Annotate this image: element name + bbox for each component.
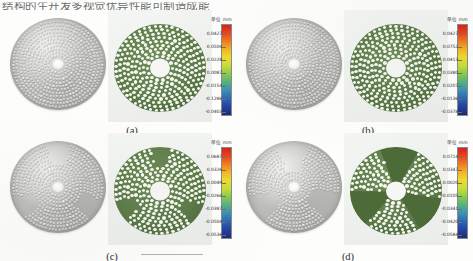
hole — [38, 66, 40, 68]
hole — [364, 37, 367, 40]
colorbar-tick: 0.0380 — [443, 70, 458, 75]
hole — [296, 218, 298, 220]
hole — [294, 171, 296, 173]
hole — [41, 202, 43, 204]
hole — [77, 73, 79, 75]
colorbar-tick: -0.0403 — [205, 109, 222, 114]
hole — [264, 35, 266, 37]
center-hub — [288, 181, 301, 193]
hole — [262, 160, 264, 162]
hole — [292, 215, 294, 217]
hole — [79, 181, 81, 183]
hole — [146, 179, 150, 182]
hole — [309, 175, 311, 177]
hole — [170, 226, 173, 229]
hole — [178, 204, 181, 207]
hole — [37, 186, 39, 188]
hole — [391, 55, 395, 58]
hole — [125, 94, 128, 97]
hole — [302, 214, 304, 216]
hole — [59, 106, 61, 108]
hole — [406, 174, 410, 177]
hole — [310, 27, 312, 29]
hole — [73, 84, 75, 86]
hole — [32, 164, 34, 166]
hole — [124, 40, 127, 43]
hole — [72, 92, 74, 94]
hole — [266, 93, 268, 95]
hole — [273, 80, 275, 82]
hole — [40, 23, 42, 25]
hole — [298, 38, 300, 40]
hole — [165, 97, 168, 100]
hole — [50, 35, 52, 37]
hole — [293, 44, 295, 46]
hole — [305, 160, 307, 162]
hole — [302, 224, 304, 226]
hole — [288, 175, 290, 177]
hole — [408, 39, 411, 42]
colorbar-tick-mark — [458, 183, 462, 184]
hole — [314, 79, 316, 81]
hole — [371, 59, 374, 62]
hole — [358, 91, 361, 94]
hole — [269, 95, 271, 97]
hole — [156, 51, 160, 54]
hole — [50, 161, 52, 163]
hole — [362, 64, 365, 67]
hole — [287, 102, 289, 104]
hole — [98, 184, 100, 186]
hole — [310, 44, 312, 46]
hole — [330, 56, 332, 58]
hole — [50, 169, 52, 171]
hole — [249, 184, 251, 186]
hole — [88, 161, 90, 163]
hole — [296, 225, 298, 227]
hole — [355, 86, 358, 89]
hole — [366, 188, 369, 191]
hole — [318, 178, 320, 180]
hole — [53, 99, 55, 101]
hole — [50, 38, 52, 40]
hole — [64, 49, 66, 51]
hole — [173, 35, 176, 38]
hole — [387, 44, 390, 47]
hole — [256, 181, 258, 183]
hole — [34, 185, 36, 187]
hole — [309, 189, 311, 191]
hole — [270, 68, 272, 70]
hole — [310, 31, 312, 33]
hole — [170, 77, 174, 80]
hole — [86, 95, 88, 97]
hole — [351, 76, 354, 79]
hole — [323, 182, 325, 184]
hole — [141, 97, 144, 100]
hole — [61, 175, 63, 177]
hole — [366, 163, 369, 166]
hole — [71, 76, 73, 78]
hole — [122, 190, 125, 193]
hole — [406, 26, 409, 29]
colorbar-tick: 0.0087 — [207, 70, 222, 75]
hole — [387, 89, 390, 92]
hole — [37, 208, 39, 210]
hole — [330, 66, 332, 68]
hole — [24, 55, 26, 57]
hole — [73, 52, 75, 54]
hole — [317, 86, 319, 88]
hole — [274, 217, 276, 219]
hole — [309, 185, 311, 187]
colorbar-tick: -0.0378 — [441, 109, 458, 114]
hole — [266, 220, 268, 222]
hole — [130, 188, 133, 191]
hole — [89, 88, 91, 90]
hole — [378, 70, 382, 73]
hole — [159, 170, 163, 173]
hole — [42, 193, 44, 195]
hole — [334, 60, 336, 62]
hole — [44, 86, 46, 88]
hole — [92, 43, 94, 45]
hole — [381, 39, 384, 42]
hole — [23, 68, 25, 70]
hole — [40, 210, 42, 212]
